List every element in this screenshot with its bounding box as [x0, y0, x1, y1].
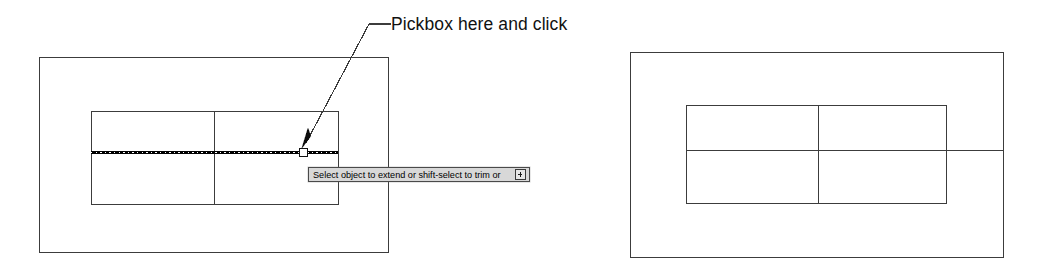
- annotation-label: Pickbox here and click: [391, 13, 567, 35]
- cad-illustration-screenshot: Pickbox here and click Select object to …: [0, 0, 1038, 273]
- pickbox-icon: [300, 149, 308, 157]
- expand-box-icon[interactable]: [515, 169, 526, 180]
- leader-line: [306, 24, 391, 143]
- drawing-canvas: [0, 0, 1038, 273]
- after-panel: [631, 53, 1004, 258]
- before-panel: [40, 24, 392, 253]
- command-tooltip-text: Select object to extend or shift-select …: [313, 169, 501, 180]
- after-inner-rectangle: [687, 106, 947, 204]
- command-tooltip: Select object to extend or shift-select …: [308, 167, 530, 182]
- cursor-arrow-icon: [302, 129, 310, 148]
